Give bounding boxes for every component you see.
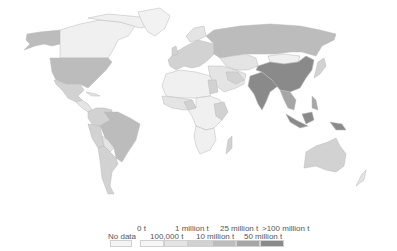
legend-label-0t: 0 t — [137, 224, 146, 233]
legend-swatch-no-data — [110, 240, 132, 247]
country-indonesia-borneo[interactable] — [302, 112, 314, 124]
legend-swatch-100k-1m — [164, 240, 188, 247]
legend-swatch-1m-10m — [188, 240, 212, 247]
country-egypt[interactable] — [208, 80, 218, 94]
country-alaska[interactable] — [24, 30, 60, 50]
map-legend: No data 0 t 1 million t 25 million t >10… — [0, 224, 397, 251]
country-uk[interactable] — [172, 46, 178, 56]
legend-swatch-10m-25m — [212, 240, 236, 247]
region-southeast-asia[interactable] — [280, 90, 296, 110]
country-greenland[interactable] — [138, 8, 170, 36]
country-new-zealand[interactable] — [356, 170, 366, 186]
country-japan[interactable] — [314, 58, 326, 78]
country-philippines[interactable] — [312, 96, 318, 110]
region-southern-africa[interactable] — [194, 126, 216, 154]
region-central-america[interactable] — [76, 100, 92, 112]
legend-swatch-0-100k — [140, 240, 164, 247]
country-canada[interactable] — [60, 20, 135, 58]
country-madagascar[interactable] — [226, 136, 232, 154]
legend-swatch-25m-50m — [236, 240, 260, 247]
region-north-africa[interactable] — [162, 70, 214, 98]
region-scandinavia[interactable] — [186, 26, 206, 42]
country-russia[interactable] — [206, 24, 336, 58]
legend-swatch-50m-100m — [260, 240, 284, 247]
country-cuba[interactable] — [86, 92, 100, 96]
world-choropleth-map — [0, 0, 397, 220]
country-australia[interactable] — [304, 138, 346, 172]
country-png[interactable] — [330, 122, 346, 130]
